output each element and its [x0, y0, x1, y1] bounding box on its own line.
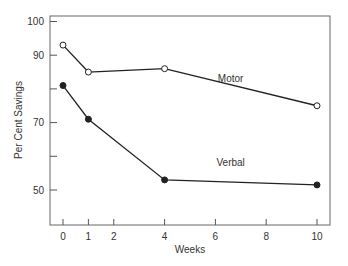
open-circle-marker — [314, 103, 320, 109]
x-tick-label: 8 — [263, 231, 269, 242]
filled-circle-marker — [162, 177, 168, 183]
open-circle-marker — [85, 69, 91, 75]
plot-frame — [50, 16, 330, 225]
y-tick-label: 50 — [33, 185, 45, 196]
x-tick-label: 6 — [213, 231, 219, 242]
series-label-motor: Motor — [218, 73, 244, 84]
filled-circle-marker — [85, 116, 91, 122]
data-series — [60, 42, 320, 188]
x-tick-label: 2 — [111, 231, 117, 242]
y-axis-title: Per Cent Savings — [13, 81, 24, 159]
x-axis-title: Weeks — [175, 244, 205, 255]
series-line-motor — [63, 45, 317, 106]
y-axis: 507090100 — [27, 16, 57, 196]
filled-circle-marker — [60, 83, 66, 89]
open-circle-marker — [162, 66, 168, 72]
open-circle-marker — [60, 42, 66, 48]
x-tick-label: 4 — [162, 231, 168, 242]
series-line-verbal — [63, 86, 317, 185]
series-label-verbal: Verbal — [216, 157, 244, 168]
x-tick-label: 1 — [86, 231, 92, 242]
x-tick-label: 0 — [60, 231, 66, 242]
filled-circle-marker — [314, 182, 320, 188]
y-tick-label: 70 — [33, 117, 45, 128]
x-axis: 01246810 — [60, 219, 323, 242]
line-chart: 507090100 01246810 Per Cent Savings Week… — [0, 0, 348, 266]
x-tick-label: 10 — [311, 231, 323, 242]
y-tick-label: 90 — [33, 50, 45, 61]
y-tick-label: 100 — [27, 16, 44, 27]
